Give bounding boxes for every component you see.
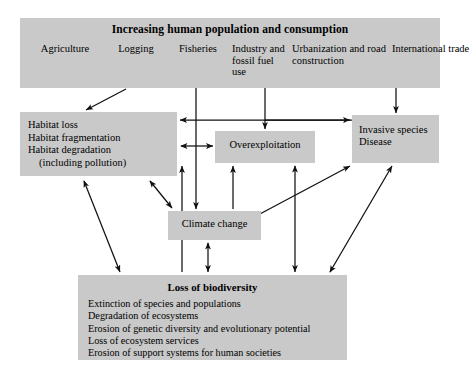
habitat-line-2: Habitat fragmentation bbox=[28, 132, 126, 145]
node-habitat-loss: Habitat loss Habitat fragmentation Habit… bbox=[20, 112, 177, 176]
driver-list: Agriculture Logging Fisheries Industry a… bbox=[20, 43, 440, 87]
node-climate-change: Climate change bbox=[168, 211, 261, 240]
loss-item-3: Erosion of genetic diversity and evoluti… bbox=[88, 323, 310, 335]
loss-title: Loss of biodiversity bbox=[78, 281, 347, 293]
habitat-line-3: Habitat degradation bbox=[28, 144, 126, 157]
loss-item-2: Degradation of ecosystems bbox=[88, 310, 310, 322]
invasive-line-2: Disease bbox=[359, 136, 428, 148]
driver-agriculture: Agriculture bbox=[25, 43, 105, 55]
node-loss-of-biodiversity: Loss of biodiversity Extinction of speci… bbox=[78, 275, 347, 360]
loss-item-5: Erosion of support systems for human soc… bbox=[88, 347, 310, 359]
driver-logging: Logging bbox=[105, 43, 167, 55]
arrow-habitat-climate bbox=[150, 181, 172, 208]
loss-items: Extinction of species and populations De… bbox=[88, 298, 310, 359]
habitat-lines: Habitat loss Habitat fragmentation Habit… bbox=[28, 119, 126, 169]
habitat-line-4: (including pollution) bbox=[28, 157, 126, 170]
driver-industry: Industry and fossil fuel use bbox=[232, 43, 290, 78]
invasive-line-1: Invasive species bbox=[359, 124, 428, 136]
banner-title: Increasing human population and consumpt… bbox=[20, 23, 440, 35]
arrow-loss-invasive bbox=[330, 166, 392, 272]
node-invasive-species: Invasive species Disease bbox=[352, 115, 439, 163]
node-overexploitation: Overexploitation bbox=[215, 131, 315, 163]
habitat-line-1: Habitat loss bbox=[28, 119, 126, 132]
loss-item-4: Loss of ecosystem services bbox=[88, 335, 310, 347]
overexploitation-label: Overexploitation bbox=[215, 139, 315, 150]
climate-change-label: Climate change bbox=[168, 218, 261, 229]
driver-international-trade: International trade bbox=[392, 43, 474, 55]
loss-item-1: Extinction of species and populations bbox=[88, 298, 310, 310]
arrow-habitat-loss bbox=[84, 181, 120, 272]
arrow-logging-to-habitat bbox=[86, 89, 126, 110]
driver-urbanization: Urbanization and road construction bbox=[292, 43, 392, 66]
invasive-lines: Invasive species Disease bbox=[359, 124, 428, 149]
banner-human-pressures: Increasing human population and consumpt… bbox=[20, 18, 440, 88]
driver-fisheries: Fisheries bbox=[167, 43, 229, 55]
arrow-climate-to-invasive bbox=[258, 166, 350, 215]
